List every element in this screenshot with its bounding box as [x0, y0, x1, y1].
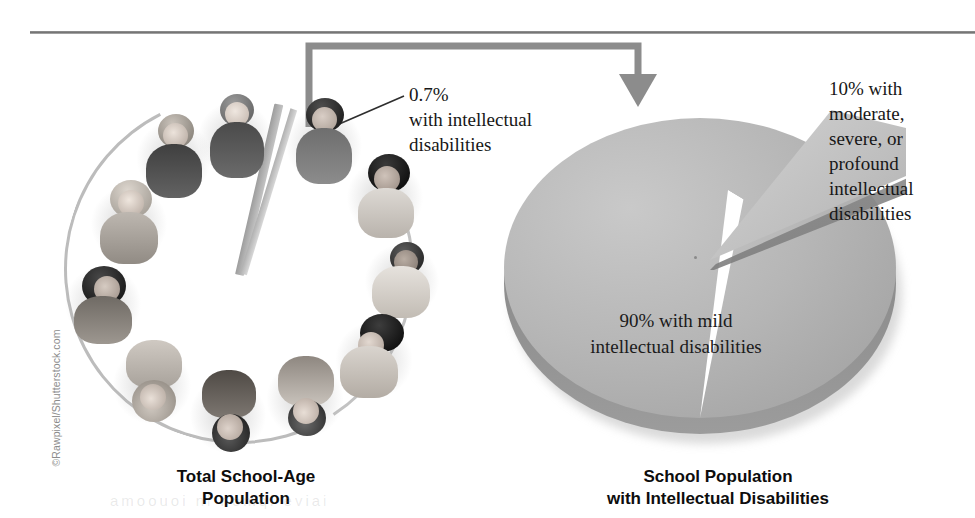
child-photo-9 — [68, 262, 140, 346]
callout-left-0-7-percent: 0.7% with intellectual disabilities — [409, 82, 579, 157]
child-photo-6 — [270, 354, 342, 442]
left-chart-children-ring — [62, 92, 412, 442]
callout-left-line-3: disabilities — [409, 132, 579, 157]
pie-slice-90-label: 90% with mild intellectual disabilities — [526, 308, 826, 359]
caption-left-line-1: Total School-Age — [96, 466, 396, 488]
callout-left-line-2: with intellectual — [409, 107, 579, 132]
callout-right-line-6: disabilities — [829, 201, 975, 226]
child-photo-8 — [116, 340, 190, 428]
callout-right-10-percent: 10% with moderate, severe, or profound i… — [829, 76, 975, 226]
callout-right-line-5: intellectual — [829, 176, 975, 201]
pie-slice-90-label-line-2: intellectual disabilities — [526, 334, 826, 360]
callout-right-line-4: profound — [829, 151, 975, 176]
caption-right-line-2: with Intellectual Disabilities — [540, 488, 896, 510]
top-divider-rule — [30, 31, 975, 34]
callout-left-line-1: 0.7% — [409, 82, 579, 107]
child-photo-7 — [194, 370, 264, 458]
callout-right-line-2: moderate, — [829, 101, 975, 126]
pie-center-marker — [694, 256, 697, 259]
child-photo-4 — [368, 240, 438, 322]
caption-right-line-1: School Population — [540, 466, 896, 488]
image-credit: ©Rawpixel/Shutterstock.com — [50, 298, 62, 498]
child-photo-2 — [290, 98, 358, 186]
child-photo-3 — [350, 154, 422, 240]
page-bleed-through-text: amoouoi nl nomqi eviai — [110, 492, 530, 510]
callout-right-line-1: 10% with — [829, 76, 975, 101]
child-photo-11 — [140, 114, 210, 200]
child-photo-1 — [204, 94, 270, 180]
pie-slice-90-label-line-1: 90% with mild — [526, 308, 826, 334]
caption-right: School Population with Intellectual Disa… — [540, 466, 896, 510]
figure-root: ©Rawpixel/Shutterstock.com — [0, 0, 975, 518]
child-photo-5 — [338, 314, 412, 400]
callout-right-line-3: severe, or — [829, 126, 975, 151]
